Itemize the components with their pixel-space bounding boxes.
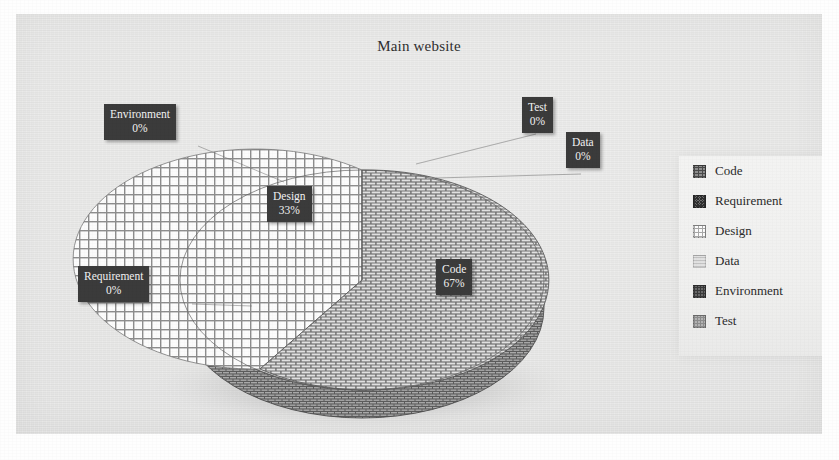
data-label-data-value: 0% [572,150,594,164]
legend-item-environment: Environment [679,276,822,306]
data-label-requirement: Requirement 0% [78,266,149,302]
chart-legend: Code Requirement Design Data Environment… [679,156,822,356]
swatch-code-icon [693,165,706,178]
data-label-requirement-value: 0% [84,284,143,298]
swatch-requirement-icon [693,195,706,208]
data-label-requirement-name: Requirement [84,270,143,282]
data-label-test: Test 0% [522,97,553,133]
swatch-environment-icon [693,285,706,298]
legend-label-test: Test [715,313,736,329]
legend-item-test: Test [679,306,822,336]
legend-label-code: Code [715,163,742,179]
legend-label-requirement: Requirement [715,193,782,209]
data-label-code-name: Code [442,263,466,275]
swatch-data-icon [693,255,706,268]
data-label-data: Data 0% [566,132,600,168]
data-label-environment-value: 0% [110,122,170,136]
swatch-design-icon [693,225,706,238]
legend-item-requirement: Requirement [679,186,822,216]
legend-item-data: Data [679,246,822,276]
legend-item-code: Code [679,156,822,186]
legend-label-data: Data [715,253,740,269]
legend-item-design: Design [679,216,822,246]
data-label-environment: Environment 0% [104,104,176,140]
pie-chart-figure: Main website [16,14,822,434]
data-label-code: Code 67% [436,259,472,295]
data-label-code-value: 67% [442,277,466,291]
data-label-design-name: Design [273,190,306,202]
legend-label-environment: Environment [715,283,783,299]
data-label-test-name: Test [528,101,547,113]
data-label-environment-name: Environment [110,108,170,120]
data-label-data-name: Data [572,136,594,148]
data-label-design-value: 33% [273,204,306,218]
scanned-page: Main website [0,0,839,460]
data-label-design: Design 33% [267,186,312,222]
data-label-test-value: 0% [528,115,547,129]
swatch-test-icon [693,315,706,328]
legend-label-design: Design [715,223,752,239]
